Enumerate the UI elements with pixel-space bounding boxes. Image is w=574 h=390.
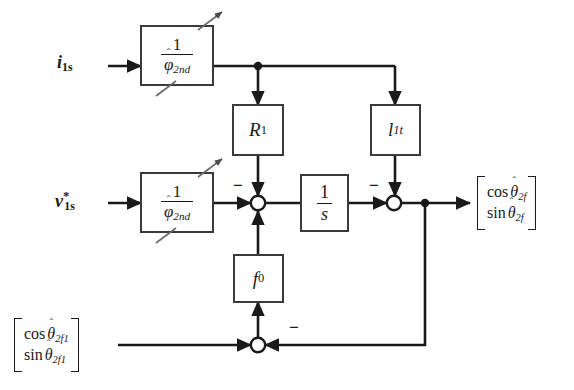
input-label-i1s: i1s bbox=[57, 52, 73, 75]
sum-junction-2-circle bbox=[387, 196, 401, 210]
reference-sin-fn: sin bbox=[24, 346, 43, 363]
input-v1s-subscript: 1s bbox=[64, 199, 75, 213]
output-bracket-right bbox=[528, 176, 536, 230]
gain-bottom-denominator: ˆ φ 2nd bbox=[161, 203, 193, 222]
input-v1s-symbol: v bbox=[55, 191, 63, 211]
sum-junction-3-circle bbox=[251, 338, 265, 352]
integrator-block-label: 1 s bbox=[301, 175, 348, 231]
input-i1s-symbol: i bbox=[57, 52, 62, 72]
R1-symbol: R bbox=[249, 119, 261, 141]
output-sin-hat: ˆ bbox=[510, 195, 514, 209]
output-bracket-left bbox=[477, 176, 485, 230]
reference-cos-subscript: 2f1 bbox=[55, 333, 68, 344]
gain-top-phi-subscript: 2nd bbox=[173, 63, 190, 75]
f0-subscript: 0 bbox=[258, 271, 264, 286]
gain-bottom-fraction: 1 ˆ φ 2nd bbox=[161, 183, 193, 223]
output-cos-subscript: 2f bbox=[518, 191, 526, 202]
reference-bracket-left bbox=[14, 318, 22, 372]
input-i1s-subscript: 1s bbox=[62, 60, 73, 74]
integrator-denominator: s bbox=[317, 205, 332, 223]
resistance-block-label: R1 bbox=[233, 105, 283, 155]
feedback-gain-block-label: f0 bbox=[234, 255, 283, 302]
output-vector-rows: cos ˆ θ 2f sin ˆ θ 2f bbox=[485, 176, 528, 230]
reference-cos-fn: cos bbox=[24, 325, 45, 342]
gain-block-top-label: 1 ˆ φ 2nd bbox=[141, 26, 213, 85]
gain-top-numerator: 1 bbox=[161, 36, 193, 53]
minus-sign-l1t: − bbox=[369, 176, 379, 196]
reference-sin-hat: ˆ bbox=[47, 337, 51, 351]
output-sin-fn: sin bbox=[487, 204, 506, 221]
gain-block-bottom-label: 1 ˆ φ 2nd bbox=[141, 173, 213, 232]
output-cos-hat: ˆ bbox=[512, 174, 516, 188]
output-sin-subscript: 2f bbox=[516, 212, 524, 223]
input-label-v1s: v*1s bbox=[55, 189, 75, 214]
reference-cos-hat: ˆ bbox=[49, 316, 53, 330]
reference-sin-subscript: 2f1 bbox=[53, 354, 66, 365]
branch-dot-top bbox=[254, 62, 262, 70]
output-row-cos: cos ˆ θ 2f bbox=[487, 182, 526, 203]
sum-junction-1-circle bbox=[251, 196, 265, 210]
leakage-block-label: l1t bbox=[371, 105, 420, 155]
integrator-numerator: 1 bbox=[317, 183, 332, 201]
output-vector: cos ˆ θ 2f sin ˆ θ 2f bbox=[477, 176, 536, 230]
gain-top-fraction: 1 ˆ φ 2nd bbox=[161, 36, 193, 76]
reference-vector-rows: cos ˆ θ 2f1 sin ˆ θ 2f1 bbox=[22, 318, 71, 372]
reference-bracket-right bbox=[71, 318, 79, 372]
gain-top-denominator: ˆ φ 2nd bbox=[161, 56, 193, 75]
minus-sign-fb: − bbox=[289, 318, 299, 338]
reference-row-sin: sin ˆ θ 2f1 bbox=[24, 345, 69, 366]
branch-dot-output bbox=[421, 199, 429, 207]
gain-bottom-phi-subscript: 2nd bbox=[173, 210, 190, 222]
integrator-fraction: 1 s bbox=[317, 183, 332, 223]
R1-subscript: 1 bbox=[261, 123, 267, 138]
reference-angle-vector: cos ˆ θ 2f1 sin ˆ θ 2f1 bbox=[14, 318, 79, 372]
gain-bottom-hat-accent: ˆ bbox=[167, 194, 171, 205]
minus-sign-r1: − bbox=[233, 176, 243, 196]
block-diagram-canvas: i1s v*1s 1 ˆ φ 2nd 1 ˆ φ 2nd bbox=[0, 0, 574, 390]
gain-bottom-numerator: 1 bbox=[161, 183, 193, 200]
output-row-sin: sin ˆ θ 2f bbox=[487, 203, 526, 224]
output-cos-fn: cos bbox=[487, 183, 508, 200]
gain-top-hat-accent: ˆ bbox=[167, 47, 171, 58]
l1t-subscript: 1t bbox=[393, 123, 403, 138]
